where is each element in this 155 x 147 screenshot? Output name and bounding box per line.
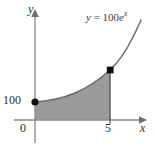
point-upper-endpoint bbox=[107, 67, 114, 74]
y-tick-label-100: 100 bbox=[3, 94, 21, 106]
x-tick-label-5: 5 bbox=[105, 122, 111, 134]
origin-label: 0 bbox=[20, 122, 26, 134]
y-axis-label: y bbox=[28, 3, 33, 15]
x-axis-label: x bbox=[140, 122, 145, 134]
point-y-intercept bbox=[31, 98, 38, 105]
equation-exponent: x bbox=[124, 9, 127, 18]
shaded-area-under-curve bbox=[35, 70, 110, 120]
equation-coefficient: 100 bbox=[103, 11, 120, 23]
curve-equation-label: y = 100ex bbox=[86, 12, 127, 23]
exponential-area-figure: y x 100 0 5 y = 100ex bbox=[0, 0, 155, 147]
